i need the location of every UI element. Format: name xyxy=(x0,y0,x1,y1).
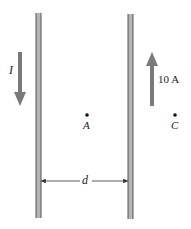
current-label-10a: 10 A xyxy=(158,74,179,85)
right-wire xyxy=(128,14,133,219)
parallel-wires-diagram: I 10 A A C d xyxy=(0,0,191,229)
current-label-i: I xyxy=(9,64,13,76)
point-c-dot xyxy=(173,113,177,117)
diagram-graphics xyxy=(0,0,191,229)
point-a-dot xyxy=(85,113,89,117)
current-arrow-up-icon xyxy=(146,52,158,106)
left-wire xyxy=(36,13,41,218)
point-a-label: A xyxy=(83,120,90,131)
point-c-label: C xyxy=(171,120,178,131)
current-arrow-down-icon xyxy=(14,52,26,106)
distance-label-d: d xyxy=(82,174,88,186)
